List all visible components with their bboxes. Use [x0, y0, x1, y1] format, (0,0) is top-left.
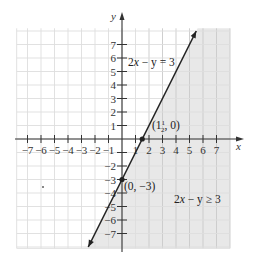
- x-tick-label: 5: [187, 144, 193, 156]
- x-tick-label: −5: [49, 144, 61, 156]
- y-tick-label: 1: [111, 120, 117, 132]
- y-tick-label: −3: [104, 174, 116, 186]
- y-tick-label: −2: [104, 160, 116, 172]
- y-tick-label: 2: [111, 106, 117, 118]
- y-tick-label: −7: [104, 228, 116, 240]
- y-tick-label: 6: [111, 52, 117, 64]
- line-equation-label: 2x − y = 3: [128, 56, 175, 69]
- x-tick-label: −3: [76, 144, 88, 156]
- x-tick-label: 2: [146, 144, 152, 156]
- y-axis-label: y: [110, 10, 116, 22]
- line-arrow-top-icon: [191, 31, 197, 39]
- x-tick-label: 7: [214, 144, 220, 156]
- scan-speck: [42, 186, 44, 188]
- x-tick-label: 3: [160, 144, 166, 156]
- y-tick-label: 4: [111, 79, 117, 91]
- x-tick-label: −4: [62, 144, 74, 156]
- x-tick-label: −2: [89, 144, 101, 156]
- y-axis-arrow-icon: [120, 12, 125, 20]
- x-tick-label: 4: [173, 144, 179, 156]
- y-tick-label: −6: [104, 214, 116, 226]
- x-tick-label: −7: [22, 144, 34, 156]
- intercept-point: [140, 136, 145, 141]
- y-tick-label: 5: [111, 66, 117, 78]
- point-label-y-intercept: (0, −3): [124, 180, 156, 193]
- inequality-label: 2x − y ≥ 3: [174, 193, 221, 206]
- y-tick-label: 3: [111, 93, 117, 105]
- y-tick-label: 7: [111, 39, 117, 51]
- inequality-graph: −7−6−5−4−3−2−112345677654321−2−3−4−5−6−7…: [0, 0, 257, 263]
- x-axis-label: x: [235, 140, 241, 152]
- x-tick-label: 6: [200, 144, 206, 156]
- x-tick-label: −1: [103, 144, 115, 156]
- x-tick-label: −6: [35, 144, 47, 156]
